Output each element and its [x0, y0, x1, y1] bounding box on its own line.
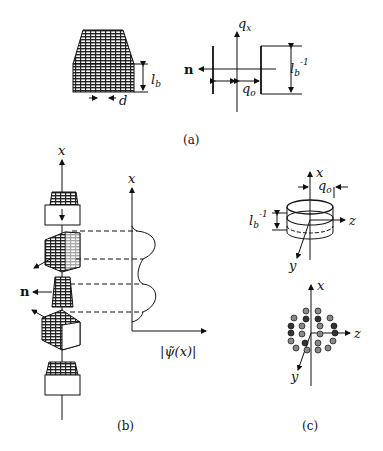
label-c-top-z: z	[348, 213, 356, 228]
label-c-lb-inv: lb-1	[249, 209, 268, 230]
caption-b: (b)	[117, 419, 134, 433]
figure-canvas: lb d qx n qo lb-1 (a)	[0, 0, 383, 451]
panel-a-reciprocal-schematic	[199, 32, 302, 112]
panel-a-lattice-block	[73, 30, 148, 98]
label-lb: lb	[151, 72, 161, 89]
label-b-x: x	[58, 143, 66, 158]
label-c-bot-y: y	[290, 369, 299, 384]
caption-a: (a)	[183, 133, 200, 147]
label-plot-x: x	[128, 171, 136, 186]
caption-c: (c)	[302, 419, 318, 433]
label-n: n	[184, 62, 194, 77]
panel-b-plot	[70, 188, 206, 331]
panel-b-blocks	[32, 160, 80, 420]
label-psi: |ψ̃(x)|	[160, 344, 196, 359]
label-c-bot-x: x	[317, 278, 325, 293]
label-qo: qo	[242, 81, 256, 98]
label-c-bot-z: z	[353, 326, 361, 341]
label-c-top-y: y	[288, 258, 297, 273]
label-d: d	[119, 93, 127, 108]
label-b-n: n	[20, 284, 30, 299]
label-c-qo: qo	[318, 178, 332, 195]
panel-c-cylinder	[272, 172, 348, 260]
label-qx: qx	[238, 16, 251, 33]
label-lb-inv: lb-1	[290, 57, 309, 78]
